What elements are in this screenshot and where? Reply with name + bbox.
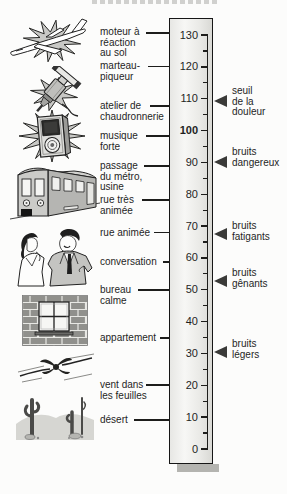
scale-number: 120 bbox=[171, 60, 198, 73]
scale-major-tick bbox=[201, 257, 208, 258]
source-label: bureau calme bbox=[100, 285, 168, 306]
scale-number: 80 bbox=[171, 188, 198, 201]
scale-number: 110 bbox=[171, 92, 198, 105]
talking-people-icon bbox=[8, 224, 96, 300]
source-label: rue très animée bbox=[100, 195, 168, 216]
zone-label: bruits gênants bbox=[232, 268, 286, 289]
scale-major-tick bbox=[201, 225, 208, 226]
scale-number: 10 bbox=[171, 411, 198, 424]
scale-major-tick bbox=[201, 162, 208, 163]
scale-major-tick bbox=[201, 416, 208, 417]
scale-minor-tick bbox=[203, 50, 208, 51]
leader-line bbox=[160, 337, 170, 338]
scale-major-tick bbox=[201, 353, 208, 354]
scale-number: 50 bbox=[171, 283, 198, 296]
scale-minor-tick bbox=[203, 337, 208, 338]
cropped-title-fragment bbox=[92, 0, 220, 4]
scale-minor-tick bbox=[203, 241, 208, 242]
source-label: atelier de chaudronnerie bbox=[100, 101, 168, 122]
loudspeaker-icon bbox=[16, 108, 88, 164]
scale-minor-tick bbox=[203, 210, 208, 211]
scale-major-tick bbox=[201, 321, 208, 322]
scale-minor-tick bbox=[203, 273, 208, 274]
scale-number: 70 bbox=[171, 220, 198, 233]
scale-major-tick bbox=[201, 289, 208, 290]
brick-wall-window-icon bbox=[22, 295, 88, 346]
zone-arrow-icon bbox=[214, 275, 227, 287]
scale-major-tick bbox=[201, 385, 208, 386]
source-label: musique forte bbox=[100, 131, 168, 152]
scale-minor-tick bbox=[203, 401, 208, 402]
scale-column-shadow bbox=[177, 464, 219, 472]
leader-line bbox=[148, 66, 170, 67]
scale-number: 20 bbox=[171, 379, 198, 392]
source-label: vent dans les feuilles bbox=[100, 380, 168, 401]
leader-line bbox=[154, 232, 170, 233]
scale-major-tick bbox=[201, 34, 208, 35]
scale-number: 100 bbox=[171, 124, 198, 137]
source-label: rue animée bbox=[100, 228, 168, 239]
zone-label: bruits légers bbox=[232, 339, 286, 360]
source-label: conversation bbox=[100, 257, 168, 268]
desert-icon bbox=[14, 386, 96, 448]
scale-number: 30 bbox=[171, 347, 198, 360]
zone-arrow-icon bbox=[214, 228, 227, 240]
scale-minor-tick bbox=[203, 432, 208, 433]
source-label: marteau- piqueur bbox=[100, 61, 168, 82]
scale-major-tick bbox=[201, 98, 208, 99]
wind-in-leaves-icon bbox=[16, 350, 96, 390]
zone-label: bruits fatigants bbox=[232, 221, 286, 242]
source-label: appartement bbox=[100, 333, 168, 344]
zone-label: bruits dangereux bbox=[232, 147, 286, 168]
scale-number: 40 bbox=[171, 315, 198, 328]
leader-line bbox=[142, 199, 170, 200]
zone-label: seuil de la douleur bbox=[232, 86, 286, 118]
decibel-levels-diagram: 1301201101009080706050403020100moteur à … bbox=[0, 0, 287, 494]
leader-line bbox=[146, 135, 170, 136]
scale-number: 60 bbox=[171, 251, 198, 264]
scale-number: 130 bbox=[171, 29, 198, 42]
scale-major-tick bbox=[201, 130, 208, 131]
scale-minor-tick bbox=[203, 178, 208, 179]
scale-number: 0 bbox=[171, 443, 198, 456]
leader-line bbox=[146, 32, 170, 33]
leader-line bbox=[134, 419, 170, 420]
leader-line bbox=[146, 384, 170, 385]
zone-arrow-icon bbox=[214, 346, 227, 358]
zone-arrow-icon bbox=[214, 156, 227, 168]
leader-line bbox=[138, 289, 170, 290]
metro-train-icon bbox=[8, 158, 102, 222]
zone-arrow-icon bbox=[214, 95, 227, 107]
scale-major-tick bbox=[201, 194, 208, 195]
scale-minor-tick bbox=[203, 82, 208, 83]
scale-major-tick bbox=[201, 448, 208, 449]
scale-minor-tick bbox=[203, 369, 208, 370]
leader-line bbox=[163, 261, 170, 262]
scale-number: 90 bbox=[171, 156, 198, 169]
scale-minor-tick bbox=[203, 305, 208, 306]
jet-airplane-icon bbox=[6, 16, 98, 68]
scale-major-tick bbox=[201, 66, 208, 67]
leader-line bbox=[150, 105, 170, 106]
scale-minor-tick bbox=[203, 114, 208, 115]
scale-minor-tick bbox=[203, 146, 208, 147]
leader-line bbox=[144, 165, 170, 166]
